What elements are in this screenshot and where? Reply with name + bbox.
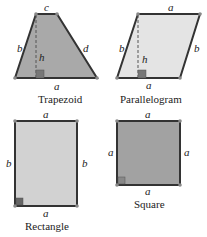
vertex-dot xyxy=(75,119,79,123)
square-label-top: a xyxy=(145,108,151,120)
vertex-dot xyxy=(115,183,119,187)
rectangle-shape xyxy=(15,121,77,206)
vertex-dot xyxy=(198,12,202,16)
vertex-dot xyxy=(178,119,182,123)
trapezoid-caption: Trapezoid xyxy=(38,93,83,105)
rectangle-caption: Rectangle xyxy=(25,220,69,232)
parallelogram-label-top: a xyxy=(168,1,174,13)
parallelogram-label-left: b xyxy=(119,42,125,54)
vertex-dot xyxy=(136,12,140,16)
parallelogram-shape xyxy=(117,14,200,78)
parallelogram-caption: Parallelogram xyxy=(120,93,182,105)
parallelogram-label-bottom: a xyxy=(146,79,152,91)
square-label-left: a xyxy=(108,146,114,158)
rectangle-label-right: b xyxy=(82,157,88,169)
vertex-dot xyxy=(75,204,79,208)
parallelogram-figure: a b b h a Parallelogram xyxy=(115,1,202,105)
trapezoid-label-bottom: a xyxy=(54,80,60,92)
square-label-bottom: a xyxy=(145,185,151,197)
rectangle-right-angle-marker xyxy=(16,198,23,205)
vertex-dot xyxy=(13,76,17,80)
square-right-angle-marker xyxy=(118,177,125,184)
rectangle-figure: a b b a Rectangle xyxy=(6,108,88,232)
trapezoid-figure: c b d h a Trapezoid xyxy=(13,1,99,105)
vertex-dot xyxy=(178,183,182,187)
vertex-dot xyxy=(13,204,17,208)
square-label-right: a xyxy=(184,146,190,158)
rectangle-label-left: b xyxy=(6,157,12,169)
trapezoid-label-left: b xyxy=(17,42,23,54)
square-caption: Square xyxy=(134,198,165,210)
square-figure: a a a a Square xyxy=(108,108,190,210)
rectangle-label-bottom: a xyxy=(43,207,49,219)
trapezoid-label-height: h xyxy=(39,51,45,63)
trapezoid-right-angle-marker xyxy=(36,70,44,78)
quadrilaterals-diagram: c b d h a Trapezoid a b b h a Parallelog… xyxy=(0,0,207,237)
vertex-dot xyxy=(55,12,59,16)
parallelogram-right-angle-marker xyxy=(138,70,146,78)
trapezoid-label-top: c xyxy=(44,1,49,13)
rectangle-label-top: a xyxy=(43,108,49,120)
vertex-dot xyxy=(115,76,119,80)
vertex-dot xyxy=(34,12,38,16)
parallelogram-label-right: b xyxy=(194,42,200,54)
vertex-dot xyxy=(95,76,99,80)
vertex-dot xyxy=(178,76,182,80)
parallelogram-label-height: h xyxy=(142,53,148,65)
vertex-dot xyxy=(13,119,17,123)
square-shape xyxy=(117,121,180,185)
vertex-dot xyxy=(115,119,119,123)
trapezoid-label-right: d xyxy=(83,42,89,54)
